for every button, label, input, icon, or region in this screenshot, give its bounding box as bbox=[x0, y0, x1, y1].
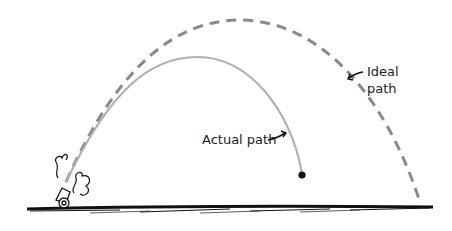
trajectory-diagram: Actual path Ideal path bbox=[0, 0, 452, 231]
ideal-path-label-line2: path bbox=[367, 81, 397, 96]
actual-path bbox=[66, 57, 302, 182]
ground-line bbox=[27, 206, 433, 213]
actual-path-label: Actual path bbox=[202, 132, 276, 147]
cannonball bbox=[298, 171, 305, 178]
ideal-path-label-line1: Ideal bbox=[367, 64, 399, 79]
smoke-puff bbox=[56, 154, 90, 195]
cannon-icon bbox=[52, 188, 76, 208]
ideal-path bbox=[66, 20, 420, 202]
